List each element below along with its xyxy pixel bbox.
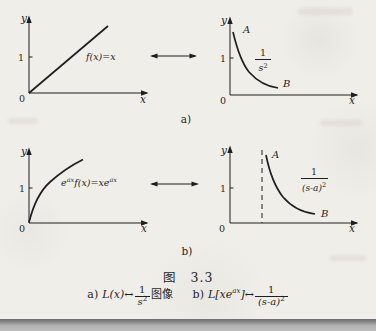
scan-edge-gray-band	[0, 319, 376, 331]
y-tick-label-1: 1	[220, 53, 226, 64]
graph-s-domain-b: y x 0 1 A B 1 (s-a)2	[219, 144, 359, 234]
origin-label: 0	[19, 223, 25, 234]
arrow-right-head-icon	[190, 53, 198, 58]
fraction-denominator: s2	[258, 62, 267, 74]
subcaption-a: a)L(x)↔1s2图像	[87, 285, 173, 307]
y-tick-label-1: 1	[220, 183, 226, 194]
point-label-A: A	[242, 24, 250, 35]
graph-s-domain-a: y x 0 1 A B 1 s2	[220, 14, 359, 106]
subcaption-b-prefix: b)	[193, 288, 204, 301]
row-label-b: b)	[182, 245, 193, 257]
origin-label: 0	[19, 93, 25, 104]
y-axis-arrowhead-icon	[227, 146, 232, 154]
point-label-B: B	[320, 208, 328, 219]
x-axis-label: x	[141, 222, 147, 234]
curve-equation-label: eaxf(x)=xeax	[61, 176, 117, 188]
x-axis-label: x	[140, 93, 146, 105]
subcaption-a-suffix: 图像	[151, 288, 173, 301]
fraction-denominator: (s-a)2	[302, 181, 326, 193]
double-arrow-icon: ↔	[245, 288, 254, 301]
denominator-exponent: 2	[322, 181, 326, 189]
fraction-numerator: 1	[260, 47, 266, 58]
curve-x-e-ax	[29, 160, 83, 223]
origin-label: 0	[219, 223, 225, 234]
denominator-exponent: 2	[263, 62, 267, 70]
y-axis-arrowhead-icon	[227, 17, 232, 25]
fraction-one-over-s-minus-a-squared: 1 (s-a)2	[301, 166, 328, 193]
y-tick-label-1: 1	[19, 183, 25, 194]
origin-label: 0	[220, 95, 226, 106]
subcaption-a-fraction: 1s2	[135, 285, 151, 307]
denominator-exponent: 2	[280, 294, 284, 302]
figure-subcaption: a)L(x)↔1s2图像 b)L[xeax]↔1(s-a)2	[0, 285, 376, 307]
caption-label: 图	[163, 270, 177, 285]
correspondence-arrow-b	[150, 181, 199, 186]
subcaption-b-lhs: L[xe	[208, 288, 232, 301]
point-label-A: A	[271, 149, 279, 160]
y-tick-label-1: 1	[18, 52, 24, 63]
arrow-left-head-icon	[150, 181, 158, 186]
denominator-exponent: 2	[143, 294, 147, 302]
caption-number: 3.3	[191, 270, 214, 285]
arrow-left-head-icon	[150, 53, 158, 58]
denominator-base: (s-a)	[258, 296, 280, 307]
fraction-numerator: 1	[311, 166, 317, 177]
subcaption-b: b)L[xeax]↔1(s-a)2	[193, 285, 289, 307]
subcaption-a-prefix: a)	[87, 288, 98, 301]
x-axis-label: x	[349, 222, 355, 234]
fraction-one-over-s-squared: 1 s2	[255, 47, 271, 73]
y-axis-arrowhead-icon	[26, 16, 31, 24]
subcaption-a-lhs: L(x)	[102, 288, 124, 301]
y-axis-label: y	[220, 144, 228, 156]
arrow-right-head-icon	[192, 181, 200, 186]
subcaption-b-fraction: 1(s-a)2	[255, 285, 288, 307]
eq-middle: f(x)=xe	[73, 177, 110, 188]
y-axis-label: y	[20, 12, 28, 24]
figure-caption: 图3.3	[0, 267, 376, 286]
correspondence-arrow-a	[150, 53, 197, 58]
graph-time-domain-b: y x 0 1 eaxf(x)=xeax	[19, 145, 149, 234]
y-axis-label: y	[220, 14, 228, 26]
row-label-a: a)	[181, 113, 191, 125]
double-arrow-icon: ↔	[124, 288, 133, 301]
scanned-textbook-figure: y x 0 1 f(x)=x y x 0 1 A B 1	[0, 0, 376, 331]
eq-exponent-ax-2: ax	[109, 176, 117, 184]
point-label-B: B	[282, 78, 290, 89]
y-axis-label: y	[20, 145, 28, 157]
x-axis-label: x	[349, 94, 355, 106]
graph-time-domain-a: y x 0 1 f(x)=x	[18, 12, 149, 105]
y-axis-arrowhead-icon	[26, 148, 31, 156]
denominator-base: (s-a)	[302, 183, 323, 193]
curve-equation-label: f(x)=x	[85, 51, 116, 62]
